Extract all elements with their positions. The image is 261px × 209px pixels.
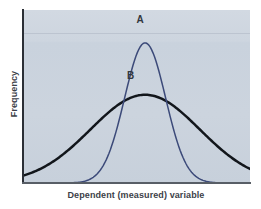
curve-a [22,43,250,183]
curve-b-label: B [127,70,134,81]
y-axis-title: Frequency [9,59,19,129]
plot-area [22,10,250,183]
curve-b [22,95,250,176]
x-axis-line [22,182,251,184]
y-axis-line [22,9,24,184]
curve-a-label: A [137,14,144,25]
plot-svg [22,10,250,183]
chart-figure: Frequency Dependent (measured) variable … [0,0,261,209]
x-axis-title: Dependent (measured) variable [22,190,250,200]
